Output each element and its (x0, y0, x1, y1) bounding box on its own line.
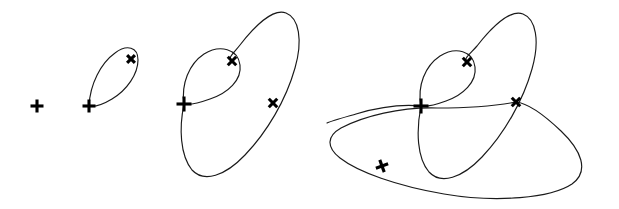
orbit-diagram-canvas (0, 0, 619, 209)
figure-root: Sequence of homoclinic orbit diagrams Fo… (0, 0, 619, 209)
